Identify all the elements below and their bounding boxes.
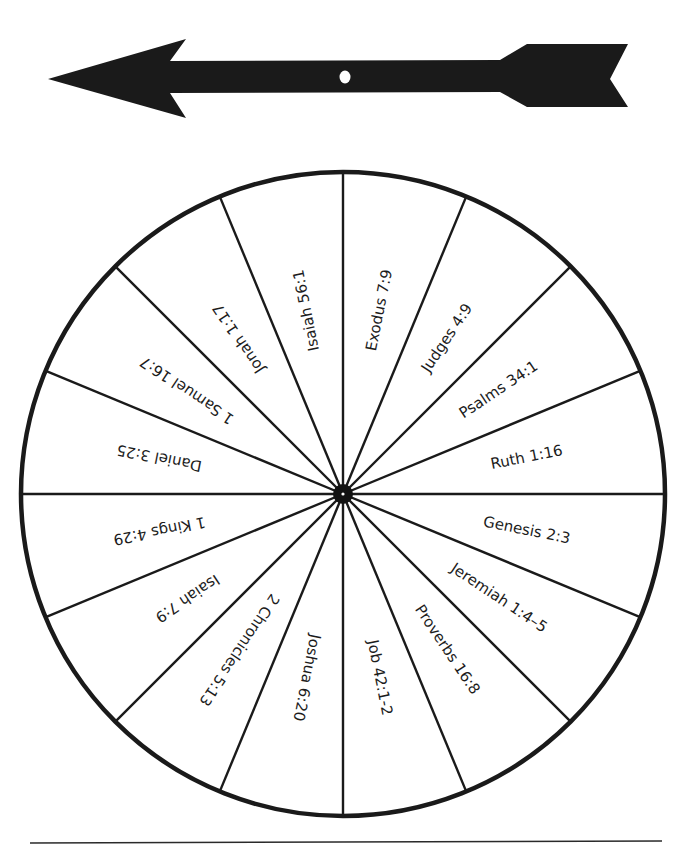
cut-line	[30, 841, 662, 843]
scripture-wheel[interactable]: Exodus 7:9Judges 4:9Psalms 34:1Ruth 1:16…	[20, 171, 666, 817]
spinner-arrow[interactable]	[48, 39, 628, 118]
arrow-icon	[48, 39, 628, 118]
spinner-sheet: Exodus 7:9Judges 4:9Psalms 34:1Ruth 1:16…	[0, 0, 695, 847]
hub-pin-icon	[341, 492, 344, 495]
pivot-hole-icon	[340, 71, 351, 84]
